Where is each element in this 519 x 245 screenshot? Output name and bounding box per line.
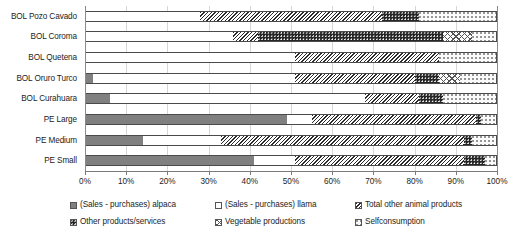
bar-segment xyxy=(85,11,200,22)
bar-segment xyxy=(85,114,287,125)
x-axis-tick-70 xyxy=(373,171,374,175)
legend-item[interactable]: Selfconsumption xyxy=(355,217,425,227)
bar-row xyxy=(85,11,497,22)
bar-segment xyxy=(258,31,443,42)
legend-swatch-icon xyxy=(215,219,222,226)
bar-segment xyxy=(472,135,497,146)
legend-item[interactable]: Vegetable productions xyxy=(215,217,305,227)
legend-swatch-icon xyxy=(355,219,362,226)
x-axis-tick-label-40: 40% xyxy=(230,177,270,187)
bar-segment xyxy=(200,11,381,22)
x-axis-tick-10 xyxy=(126,171,127,175)
bar-segment xyxy=(464,155,485,166)
legend-swatch-icon xyxy=(70,202,77,209)
x-axis-tick-label-100: 100% xyxy=(477,177,517,187)
y-axis-label-bol-oruro-turco: BOL Oruro Turco xyxy=(0,74,77,83)
legend-label: (Sales - purchases) alpaca xyxy=(80,200,176,210)
y-axis-label-pe-large: PE Large xyxy=(0,115,77,124)
bar-segment xyxy=(233,31,258,42)
gridline-100 xyxy=(497,6,498,171)
bar-segment xyxy=(472,31,497,42)
bar-segment xyxy=(415,73,440,84)
y-axis-label-pe-small: PE Small xyxy=(0,156,77,165)
bar-row xyxy=(85,73,497,84)
legend-swatch-icon xyxy=(70,219,77,226)
bar-segment xyxy=(254,155,295,166)
gridline-0 xyxy=(85,6,86,171)
bar-segment xyxy=(85,52,295,63)
bar-segment xyxy=(439,52,497,63)
bar-segment xyxy=(443,93,497,104)
bar-segment xyxy=(419,11,497,22)
legend-swatch-icon xyxy=(215,202,222,209)
bar-segment xyxy=(419,93,444,104)
bar-segment xyxy=(93,73,295,84)
x-axis-tick-20 xyxy=(167,171,168,175)
legend-item[interactable]: Total other animal products xyxy=(355,200,462,210)
x-axis-tick-60 xyxy=(332,171,333,175)
legend-item[interactable]: (Sales - purchases) alpaca xyxy=(70,200,176,210)
bar-segment xyxy=(365,93,419,104)
legend-label: Vegetable productions xyxy=(225,217,305,227)
bar-row xyxy=(85,114,497,125)
bar-segment xyxy=(85,73,93,84)
x-axis-tick-0 xyxy=(85,171,86,175)
bar-segment xyxy=(221,135,464,146)
bar-segment xyxy=(312,114,477,125)
legend-label: Selfconsumption xyxy=(365,217,425,227)
bar-row xyxy=(85,31,497,42)
y-axis-label-bol-pozo-cavado: BOL Pozo Cavado xyxy=(0,12,77,21)
x-axis-tick-label-60: 60% xyxy=(312,177,352,187)
x-axis-tick-label-70: 70% xyxy=(353,177,393,187)
x-axis-tick-50 xyxy=(291,171,292,175)
x-axis-tick-labels: 0%10%20%30%40%50%60%70%80%90%100% xyxy=(0,177,519,189)
bar-segment xyxy=(85,135,143,146)
x-axis-tick-label-0: 0% xyxy=(65,177,105,187)
legend-item[interactable]: Other products/services xyxy=(70,217,165,227)
x-axis-tick-label-10: 10% xyxy=(106,177,146,187)
bar-segment xyxy=(443,31,472,42)
y-axis-category-labels: BOL Pozo CavadoBOL CoromaBOL QuetenaBOL … xyxy=(0,6,81,171)
bar-segment xyxy=(382,11,419,22)
x-axis-tick-80 xyxy=(415,171,416,175)
legend-item[interactable]: (Sales - purchases) llama xyxy=(215,200,317,210)
bar-segment xyxy=(481,114,497,125)
bar-segment xyxy=(287,114,312,125)
x-axis-tick-label-80: 80% xyxy=(395,177,435,187)
bar-segment xyxy=(85,31,233,42)
x-axis-tick-label-20: 20% xyxy=(147,177,187,187)
bar-segment xyxy=(464,135,472,146)
bar-segment xyxy=(143,135,221,146)
stacked-bar-chart: BOL Pozo CavadoBOL CoromaBOL QuetenaBOL … xyxy=(0,0,519,245)
x-axis-tick-90 xyxy=(456,171,457,175)
bar-row xyxy=(85,93,497,104)
y-axis-label-bol-coroma: BOL Coroma xyxy=(0,32,77,41)
bar-segment xyxy=(295,73,414,84)
y-axis-label-bol-curahuara: BOL Curahuara xyxy=(0,94,77,103)
bar-row xyxy=(85,135,497,146)
x-axis-tick-label-30: 30% xyxy=(189,177,229,187)
bar-segment xyxy=(485,155,497,166)
x-axis-tick-100 xyxy=(497,171,498,175)
x-axis-tick-40 xyxy=(250,171,251,175)
chart-legend: (Sales - purchases) alpaca(Sales - purch… xyxy=(70,200,519,234)
legend-label: (Sales - purchases) llama xyxy=(225,200,317,210)
bar-segment xyxy=(295,155,464,166)
bar-segment xyxy=(110,93,365,104)
plot-area xyxy=(85,6,497,171)
bar-segment xyxy=(439,73,460,84)
bar-segment xyxy=(295,52,439,63)
bar-segment xyxy=(85,93,110,104)
x-axis-tick-label-90: 90% xyxy=(436,177,476,187)
x-axis-tick-label-50: 50% xyxy=(271,177,311,187)
x-axis-tick-30 xyxy=(209,171,210,175)
bar-segment xyxy=(85,155,254,166)
bar-segment xyxy=(460,73,497,84)
bar-row xyxy=(85,52,497,63)
legend-swatch-icon xyxy=(355,202,362,209)
legend-label: Total other animal products xyxy=(365,200,462,210)
bar-row xyxy=(85,155,497,166)
y-axis-label-bol-quetena: BOL Quetena xyxy=(0,53,77,62)
legend-label: Other products/services xyxy=(80,217,165,227)
y-axis-label-pe-medium: PE Medium xyxy=(0,136,77,145)
